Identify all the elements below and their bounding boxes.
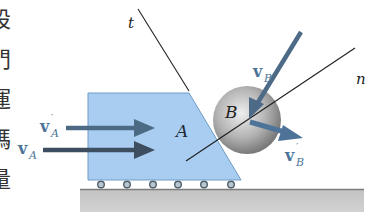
rollers <box>98 181 235 188</box>
svg-text:B: B <box>295 156 304 169</box>
impact-diagram: 設 門 運 碼 量 <box>0 0 382 212</box>
label-n: n <box>356 70 366 88</box>
svg-text:′: ′ <box>296 141 299 152</box>
svg-text:v: v <box>39 117 50 136</box>
label-vb-prime: v ′ B <box>284 141 304 169</box>
label-block-a: A <box>174 121 188 141</box>
svg-text:v: v <box>252 62 263 81</box>
ground <box>80 189 364 212</box>
svg-text:A: A <box>28 149 37 162</box>
svg-text:A: A <box>50 127 59 140</box>
label-t: t <box>128 14 135 32</box>
diagram-canvas: t n A B v ′ A v A v B v ′ B <box>0 0 382 212</box>
svg-text:′: ′ <box>51 112 54 123</box>
label-va-prime: v ′ A <box>39 112 59 140</box>
tangent-line-t <box>138 9 189 91</box>
label-va: v A <box>17 139 37 162</box>
svg-text:v: v <box>284 146 295 165</box>
svg-text:B: B <box>263 72 272 85</box>
label-vb: v B <box>252 62 272 85</box>
label-sphere-b: B <box>224 102 238 122</box>
svg-text:v: v <box>17 139 28 158</box>
